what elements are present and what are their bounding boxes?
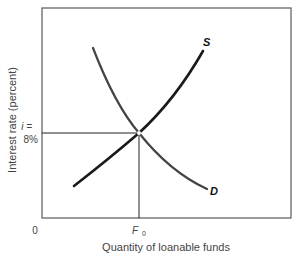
loanable-funds-chart: S D i = 8% 0 F 0 Quantity of loanable fu…	[0, 0, 301, 258]
demand-label: D	[210, 185, 218, 197]
x-axis-title: Quantity of loanable funds	[102, 241, 230, 253]
origin-label: 0	[32, 225, 38, 236]
supply-label: S	[203, 36, 211, 48]
equilibrium-point	[137, 131, 141, 135]
plot-frame	[42, 8, 291, 218]
y-axis-title: Interest rate (percent)	[6, 67, 18, 173]
y-tick-i-equals: i =	[21, 121, 32, 132]
x-tick-f: F	[132, 225, 139, 236]
y-tick-8-percent: 8%	[24, 134, 39, 145]
x-tick-f-subscript: 0	[142, 230, 146, 237]
demand-curve	[93, 48, 207, 189]
